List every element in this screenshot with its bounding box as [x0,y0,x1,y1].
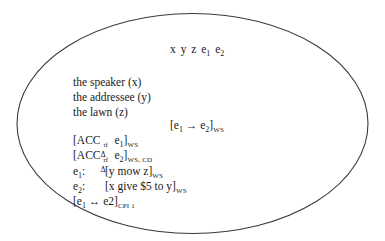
drs-universe: x y z e1 e2 [170,43,224,56]
condition-speaker: the speaker (x) [73,76,141,89]
condition-lawn: the lawn (z) [73,106,128,119]
referent-e1: e1 [201,43,210,55]
referent-x: x [170,43,176,55]
referent-e2: e2 [215,43,224,55]
condition-event-e2: e2:[x give $5 to y]WS [73,180,187,193]
arrow-left-right-icon: ↔ [89,195,101,207]
condition-acc-rf: [ACCΔrfe2]WS, CD [73,149,152,162]
referent-z: z [191,43,196,55]
referent-y: y [181,43,187,55]
condition-acc-tf: [ACCΔtfe1]WS [73,134,138,147]
arrow-right-icon: → [186,119,198,131]
condition-biconditional: [e1 ↔ e2]CPI 1 [73,195,135,208]
condition-addressee: the addressee (y) [73,91,151,104]
condition-temporal-relation: [e1 → e2]WS [170,119,224,132]
condition-event-e1: e1:[y mow z]WS [73,165,163,178]
